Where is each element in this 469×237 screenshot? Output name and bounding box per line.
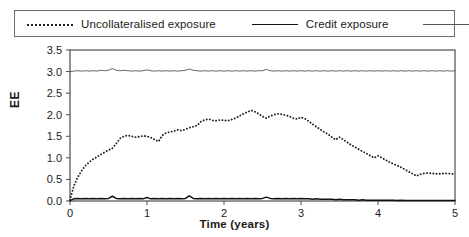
x-tick-labels: 012345 bbox=[67, 207, 458, 219]
svg-text:5: 5 bbox=[452, 207, 458, 219]
chart-figure: Uncollateralised exposure Credit exposur… bbox=[0, 0, 469, 237]
svg-text:2: 2 bbox=[221, 207, 227, 219]
series-line-funding-exposure bbox=[70, 69, 455, 72]
svg-text:3.0: 3.0 bbox=[47, 66, 62, 78]
svg-text:3.5: 3.5 bbox=[47, 44, 62, 56]
axis-tick-marks bbox=[66, 50, 455, 205]
plot-frame bbox=[70, 50, 455, 201]
svg-text:2.5: 2.5 bbox=[47, 87, 62, 99]
svg-text:3: 3 bbox=[298, 207, 304, 219]
svg-text:2.0: 2.0 bbox=[47, 109, 62, 121]
svg-text:0.5: 0.5 bbox=[47, 173, 62, 185]
series-line-uncollateralised-exposure bbox=[70, 110, 455, 200]
svg-text:4: 4 bbox=[375, 207, 381, 219]
series-line-credit-exposure bbox=[70, 196, 455, 201]
svg-text:1: 1 bbox=[144, 207, 150, 219]
svg-text:0.0: 0.0 bbox=[47, 195, 62, 207]
data-series-group bbox=[70, 69, 455, 201]
svg-text:1.0: 1.0 bbox=[47, 152, 62, 164]
svg-text:1.5: 1.5 bbox=[47, 130, 62, 142]
y-tick-labels: 0.00.51.01.52.02.53.03.5 bbox=[47, 44, 62, 207]
plot-area: 0.00.51.01.52.02.53.03.5 012345 bbox=[0, 0, 469, 237]
svg-text:0: 0 bbox=[67, 207, 73, 219]
